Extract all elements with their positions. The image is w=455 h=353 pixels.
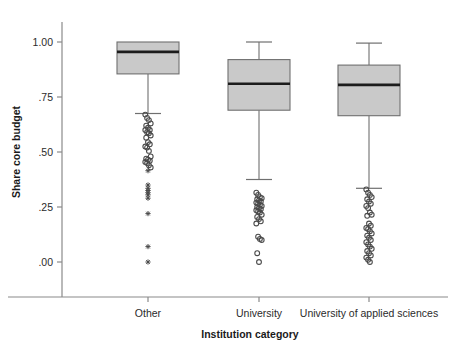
x-axis-title: Institution category (201, 328, 299, 340)
y-tick-label-4: .00 (38, 256, 53, 268)
outlier-circle-1-25 (255, 251, 260, 256)
y-axis-title: Share core budget (10, 105, 22, 198)
outlier-star-0-7 (145, 211, 150, 216)
x-tick-label-0: Other (135, 307, 162, 319)
outlier-circle-1-21 (254, 221, 259, 226)
x-tick-label-1: University (236, 307, 283, 319)
outlier-star-0-6 (145, 196, 150, 201)
outlier-circle-2-11 (365, 213, 370, 218)
outlier-star-0-0 (145, 168, 150, 173)
box-2 (338, 65, 400, 116)
outlier-circle-1-26 (257, 260, 262, 265)
boxplot-chart: 1.00.75.50.25.00Share core budgetOtherUn… (0, 0, 455, 353)
y-tick-label-3: .25 (38, 201, 53, 213)
y-tick-label-1: .75 (38, 91, 53, 103)
outlier-star-0-8 (145, 244, 150, 249)
y-tick-label-2: .50 (38, 146, 53, 158)
y-tick-label-0: 1.00 (33, 36, 54, 48)
chart-canvas: 1.00.75.50.25.00Share core budgetOtherUn… (0, 0, 455, 353)
outlier-star-0-9 (145, 259, 150, 264)
x-tick-label-2: University of applied sciences (300, 307, 438, 319)
box-0 (117, 42, 179, 74)
